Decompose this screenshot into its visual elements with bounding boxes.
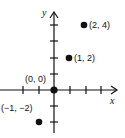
point-neg1-neg2 xyxy=(36,119,43,126)
y-axis xyxy=(50,12,58,133)
y-axis-label: y xyxy=(41,7,47,18)
x-axis-label: x xyxy=(109,95,115,106)
point-1-2 xyxy=(66,55,73,62)
point-2-4-label: (2, 4) xyxy=(89,20,110,30)
point-origin-label: (0, 0) xyxy=(25,74,46,84)
x-axis xyxy=(0,86,117,94)
point-1-2-label: (1, 2) xyxy=(74,53,95,63)
coordinate-plane: x y (2, 4) (1, 2) (0, 0) (−1, −2) xyxy=(0,0,125,138)
point-origin xyxy=(50,86,57,93)
point-neg1-neg2-label: (−1, −2) xyxy=(1,103,33,113)
point-2-4 xyxy=(81,22,88,29)
